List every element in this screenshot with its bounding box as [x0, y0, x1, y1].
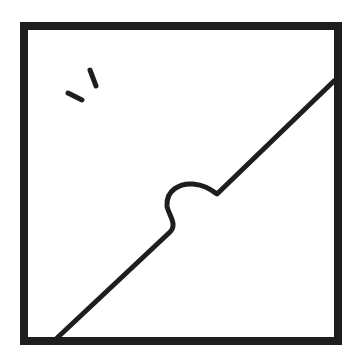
drawing — [0, 0, 362, 359]
diagonal-line-with-bump — [57, 81, 334, 338]
tick-mark-left — [68, 93, 82, 100]
tick-mark-right — [90, 70, 96, 86]
